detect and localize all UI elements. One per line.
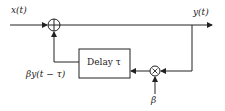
feedback-label: βy(t − τ) [26, 70, 65, 79]
diagram-lines [0, 0, 225, 111]
input-label: x(t) [11, 6, 27, 15]
output-label: y(t) [193, 8, 209, 17]
feedback-arrow [54, 32, 79, 62]
multiplier-node [150, 66, 160, 76]
gain-label: β [151, 96, 156, 105]
adder-node [48, 19, 60, 31]
delay-label: Delay τ [87, 58, 121, 67]
tap-line [161, 25, 192, 71]
feedback-delay-diagram: x(t) y(t) Delay τ βy(t − τ) β [0, 0, 225, 111]
